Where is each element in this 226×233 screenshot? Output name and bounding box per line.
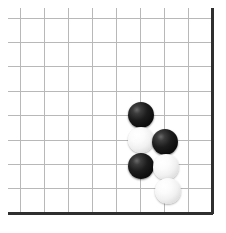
white-stone-2[interactable] <box>153 154 179 180</box>
go-board-grid[interactable] <box>0 0 226 233</box>
black-stone-2[interactable] <box>152 129 178 155</box>
white-stone-1[interactable] <box>128 127 154 153</box>
go-board[interactable] <box>0 0 226 233</box>
white-stone-3[interactable] <box>155 178 181 204</box>
board-background <box>0 0 226 233</box>
black-stone-3[interactable] <box>128 153 154 179</box>
black-stone-1[interactable] <box>128 102 154 128</box>
